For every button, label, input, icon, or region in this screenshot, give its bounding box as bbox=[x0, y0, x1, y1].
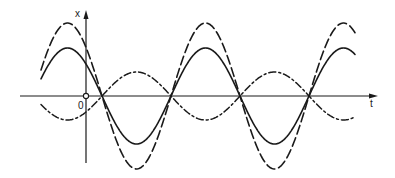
y-axis-label: x bbox=[75, 9, 80, 19]
x-axis-arrow-icon bbox=[84, 10, 89, 19]
sine-wave-diagram: x 0 t bbox=[0, 0, 395, 178]
origin-label: 0 bbox=[78, 101, 84, 111]
axes bbox=[20, 10, 378, 163]
x-axis-label: t bbox=[370, 99, 373, 109]
origin-circle-icon bbox=[83, 93, 88, 98]
diagram-canvas bbox=[0, 0, 395, 178]
